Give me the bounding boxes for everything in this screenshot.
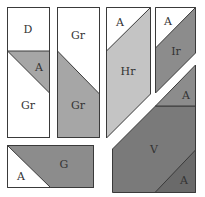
label-a-top: A: [181, 89, 191, 102]
label-a: A: [34, 61, 44, 74]
piece-gr-gr: Gr Gr: [58, 8, 100, 138]
label-a: A: [16, 170, 26, 183]
label-gr-top: Gr: [71, 29, 86, 42]
label-a: A: [163, 15, 173, 28]
label-hr: Hr: [121, 65, 137, 78]
quilt-block-diagram: D A Gr Gr Gr A Hr A Ir A V A A G: [0, 0, 205, 197]
piece-a-g: A G: [8, 146, 94, 188]
label-g: G: [60, 158, 69, 171]
label-gr: Gr: [21, 99, 36, 112]
label-d: D: [24, 23, 33, 36]
label-a: A: [115, 16, 125, 29]
piece-d-a-gr: D A Gr: [8, 8, 50, 138]
label-a-corner: A: [179, 174, 189, 187]
label-v: V: [149, 143, 159, 156]
label-gr-bottom: Gr: [71, 99, 86, 112]
label-ir: Ir: [171, 45, 181, 58]
